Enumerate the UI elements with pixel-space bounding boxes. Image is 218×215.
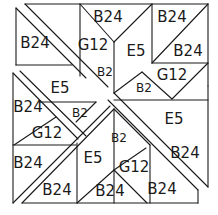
piece-label: G12 bbox=[157, 66, 188, 84]
piece-label: B24 bbox=[95, 182, 124, 200]
piece-label: B24 bbox=[157, 8, 186, 26]
piece-label: B24 bbox=[13, 98, 42, 116]
quilt-diagram: B24 B24 B24 G12 E5 B24 B2 G12 E5 B2 B24 … bbox=[0, 0, 218, 215]
piece-label: B24 bbox=[173, 42, 202, 60]
piece-labels: B24 B24 B24 G12 E5 B24 B2 G12 E5 B2 B24 … bbox=[13, 8, 202, 200]
piece-label: B24 bbox=[13, 154, 42, 172]
piece-label: B2 bbox=[72, 106, 88, 120]
piece-label: B24 bbox=[20, 34, 49, 52]
piece-label: G12 bbox=[78, 36, 109, 54]
piece-label: B24 bbox=[42, 181, 71, 199]
piece-label: G12 bbox=[119, 158, 150, 176]
piece-label: E5 bbox=[164, 110, 183, 128]
quilt-svg: B24 B24 B24 G12 E5 B24 B2 G12 E5 B2 B24 … bbox=[0, 0, 218, 215]
piece-label: B24 bbox=[147, 180, 176, 198]
piece-label: B24 bbox=[170, 144, 199, 162]
piece-label: E5 bbox=[50, 79, 69, 97]
piece-label: B2 bbox=[111, 131, 127, 145]
piece-label: B2 bbox=[97, 65, 113, 79]
piece-label: E5 bbox=[83, 149, 102, 167]
piece-label: B2 bbox=[136, 81, 152, 95]
piece-label: B24 bbox=[93, 8, 122, 26]
piece-label: E5 bbox=[126, 42, 145, 60]
piece-label: G12 bbox=[32, 124, 63, 142]
